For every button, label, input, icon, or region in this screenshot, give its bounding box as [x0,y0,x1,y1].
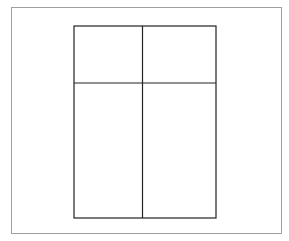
window-diagram [0,0,289,241]
window-outline [74,26,216,218]
